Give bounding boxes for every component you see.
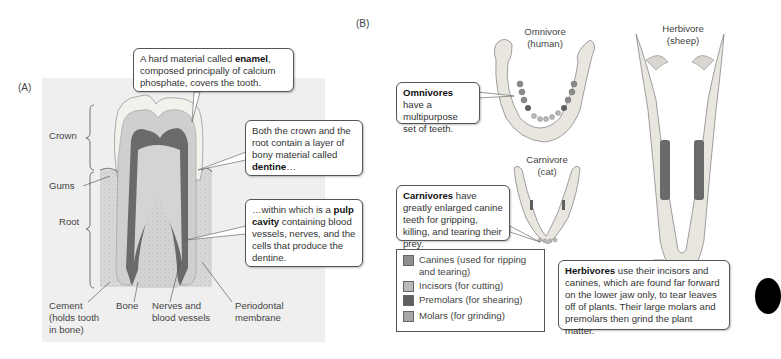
tooth-type-legend: Canines (used for ripping and tearing) I… bbox=[396, 249, 545, 332]
herbivore-title: Herbivore (sheep) bbox=[650, 23, 716, 47]
molars-swatch-icon bbox=[403, 311, 414, 322]
legend-item-incisors: Incisors (for cutting) bbox=[403, 280, 538, 292]
legend-item-premolars: Premolars (for shearing) bbox=[403, 294, 538, 306]
carnivore-title: Carnivore (cat) bbox=[514, 154, 580, 178]
canines-swatch-icon bbox=[403, 255, 414, 266]
carnivores-callout: Carnivores have greatly enlarged canine … bbox=[396, 185, 510, 241]
page-edge-marker bbox=[755, 278, 781, 314]
herbivores-callout: Herbivores use their incisors and canine… bbox=[558, 260, 730, 330]
legend-item-molars: Molars (for grinding) bbox=[403, 310, 538, 322]
legend-item-canines: Canines (used for ripping and tearing) bbox=[403, 254, 538, 278]
omnivores-callout: Omnivores have a multipurpose set of tee… bbox=[396, 82, 480, 124]
premolars-swatch-icon bbox=[403, 295, 414, 306]
omnivore-title: Omnivore (human) bbox=[512, 26, 578, 50]
incisors-swatch-icon bbox=[403, 281, 414, 292]
